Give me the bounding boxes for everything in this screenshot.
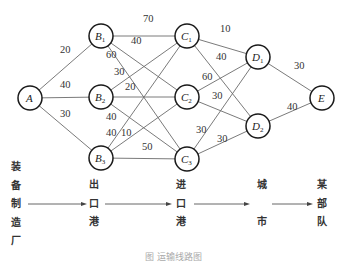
stage-char: 某 xyxy=(317,176,327,195)
edge-weight-label: 40 xyxy=(131,35,142,46)
edge-a-b3 xyxy=(30,98,101,158)
node-b3: B3 xyxy=(89,146,113,170)
edge-weight-label: 30 xyxy=(217,133,228,144)
stage-char: 备 xyxy=(11,177,21,196)
node-a: A xyxy=(18,86,42,110)
edge-weight-label: 40 xyxy=(106,111,117,122)
stage-char xyxy=(260,195,263,214)
stage-char: 部 xyxy=(317,195,327,214)
stage-char: 港 xyxy=(89,213,99,232)
stage-char: 口 xyxy=(176,195,186,214)
stage-char: 港 xyxy=(176,213,186,232)
edge-weight-label: 40 xyxy=(106,127,117,138)
figure-caption: 图 运输线路图 xyxy=(0,250,347,263)
arrowhead-icon xyxy=(81,202,87,206)
edge-c1-d2 xyxy=(187,36,258,126)
stage-import-port: 进口港 xyxy=(176,176,186,232)
stage-factory: 装备制造厂 xyxy=(11,158,21,251)
flow-arrow-layer xyxy=(28,202,313,206)
stage-char: 制 xyxy=(11,195,21,214)
edge-weight-label: 30 xyxy=(114,66,125,77)
stage-char: 装 xyxy=(11,158,21,177)
node-c1: C1 xyxy=(175,24,199,48)
edge-weight-label: 10 xyxy=(220,23,231,34)
arrowhead-icon xyxy=(307,202,313,206)
edge-weight-label: 30 xyxy=(294,60,305,71)
stage-unit: 某部队 xyxy=(317,176,327,232)
edge-weight-label: 20 xyxy=(125,81,136,92)
stage-char: 造 xyxy=(11,214,21,233)
stage-char: 进 xyxy=(176,176,186,195)
edge-weight-label: 60 xyxy=(106,49,117,60)
edge-weight-label: 30 xyxy=(60,108,71,119)
stage-char: 出 xyxy=(89,176,99,195)
edge-weight-label: 10 xyxy=(121,127,132,138)
node-c3: C3 xyxy=(175,147,199,171)
edge-weight-label: 40 xyxy=(216,51,227,62)
edge-weight-label: 70 xyxy=(143,13,154,24)
edge-weight-label: 60 xyxy=(202,71,213,82)
edge-weight-label: 40 xyxy=(287,101,298,112)
stage-char: 市 xyxy=(257,213,267,232)
node-label: E xyxy=(317,92,325,104)
edge-weight-label: 30 xyxy=(196,124,207,135)
arrowhead-icon xyxy=(166,202,172,206)
edge-b3-c3 xyxy=(101,158,187,159)
stage-char: 队 xyxy=(317,213,327,232)
stage-char: 口 xyxy=(89,195,99,214)
node-label: A xyxy=(25,92,33,104)
node-d2: D2 xyxy=(246,114,270,138)
node-d1: D1 xyxy=(246,45,270,69)
node-b1: B1 xyxy=(89,24,113,48)
stage-city: 城 市 xyxy=(257,176,267,232)
stage-char: 城 xyxy=(257,176,267,195)
stage-char: 厂 xyxy=(11,232,21,251)
stage-export-port: 出口港 xyxy=(89,176,99,232)
node-c2: C2 xyxy=(175,85,199,109)
edge-weight-label: 30 xyxy=(212,90,223,101)
node-b2: B2 xyxy=(89,85,113,109)
edge-weight-label: 50 xyxy=(142,141,153,152)
node-e: E xyxy=(310,86,334,110)
edge-weight-label: 40 xyxy=(60,79,71,90)
edge-weight-label: 20 xyxy=(60,44,71,55)
arrowhead-icon xyxy=(244,202,250,206)
